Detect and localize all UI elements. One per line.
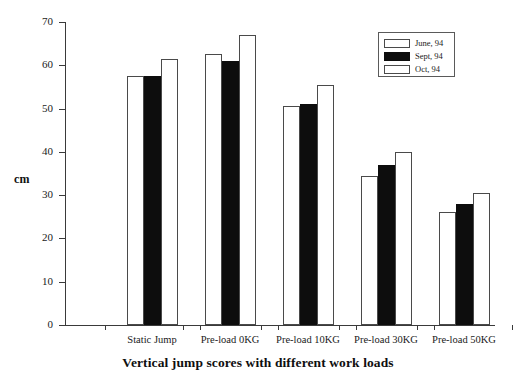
legend-label: Oct, 94	[415, 65, 440, 74]
bar-june-94-pre-load-0kg	[205, 54, 222, 325]
chart-figure: cm 010203040506070 Static JumpPre-load 0…	[0, 0, 516, 379]
x-axis-label: Pre-load 50KG	[404, 334, 516, 346]
bar-group	[127, 22, 178, 325]
legend-item: Sept, 94	[384, 50, 450, 62]
bar-oct-94-pre-load-10kg	[317, 85, 334, 325]
legend-swatch-open	[384, 65, 410, 74]
legend-item: Oct, 94	[384, 63, 450, 75]
y-tick-0	[59, 325, 65, 326]
x-tick	[200, 325, 201, 330]
bar-sept-94-static-jump	[144, 76, 161, 325]
bar-june-94-static-jump	[127, 76, 144, 325]
x-tick	[417, 325, 418, 330]
legend-item: June, 94	[384, 37, 450, 49]
y-tick-label: 40	[19, 146, 53, 157]
x-tick	[105, 325, 106, 330]
legend-label: Sept, 94	[415, 52, 443, 61]
y-tick-70	[59, 22, 65, 23]
y-tick-20	[59, 238, 65, 239]
bar-group	[205, 22, 256, 325]
bar-oct-94-pre-load-30kg	[395, 152, 412, 325]
legend-swatch-solid	[384, 52, 410, 61]
legend: June, 94Sept, 94Oct, 94	[378, 32, 455, 77]
x-tick	[278, 325, 279, 330]
bar-june-94-pre-load-10kg	[283, 106, 300, 325]
y-axis-title: cm	[14, 172, 30, 187]
y-tick-label: 50	[19, 103, 53, 114]
bar-oct-94-pre-load-50kg	[473, 193, 490, 325]
y-tick-label: 60	[19, 59, 53, 70]
x-tick	[183, 325, 184, 330]
bar-sept-94-pre-load-0kg	[222, 61, 239, 325]
y-tick-60	[59, 65, 65, 66]
chart-title: Vertical jump scores with different work…	[0, 355, 516, 371]
y-axis-line	[65, 22, 66, 325]
y-tick-label: 0	[19, 319, 53, 330]
y-tick-50	[59, 109, 65, 110]
x-tick	[356, 325, 357, 330]
x-axis-line	[65, 325, 495, 326]
x-tick	[261, 325, 262, 330]
y-tick-label: 30	[19, 189, 53, 200]
x-tick	[339, 325, 340, 330]
y-tick-label: 20	[19, 232, 53, 243]
bar-oct-94-pre-load-0kg	[239, 35, 256, 325]
bar-oct-94-static-jump	[161, 59, 178, 325]
bar-sept-94-pre-load-50kg	[456, 204, 473, 325]
bar-sept-94-pre-load-10kg	[300, 104, 317, 325]
bar-group	[283, 22, 334, 325]
legend-swatch-open	[384, 39, 410, 48]
x-tick	[434, 325, 435, 330]
y-tick-label: 10	[19, 276, 53, 287]
bar-june-94-pre-load-30kg	[361, 176, 378, 325]
bar-june-94-pre-load-50kg	[439, 212, 456, 325]
y-tick-30	[59, 195, 65, 196]
x-tick	[512, 325, 513, 330]
bar-sept-94-pre-load-30kg	[378, 165, 395, 325]
legend-label: June, 94	[415, 39, 443, 48]
y-tick-10	[59, 282, 65, 283]
y-tick-40	[59, 152, 65, 153]
y-tick-label: 70	[19, 16, 53, 27]
